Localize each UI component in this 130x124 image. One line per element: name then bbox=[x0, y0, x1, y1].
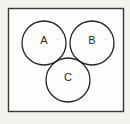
set-label-b: B bbox=[88, 34, 95, 46]
set-label-a: A bbox=[40, 34, 48, 46]
set-label-c: C bbox=[64, 71, 72, 83]
venn-diagram-canvas: A B C bbox=[0, 0, 130, 124]
venn-diagram-figure: A B C bbox=[0, 0, 130, 124]
